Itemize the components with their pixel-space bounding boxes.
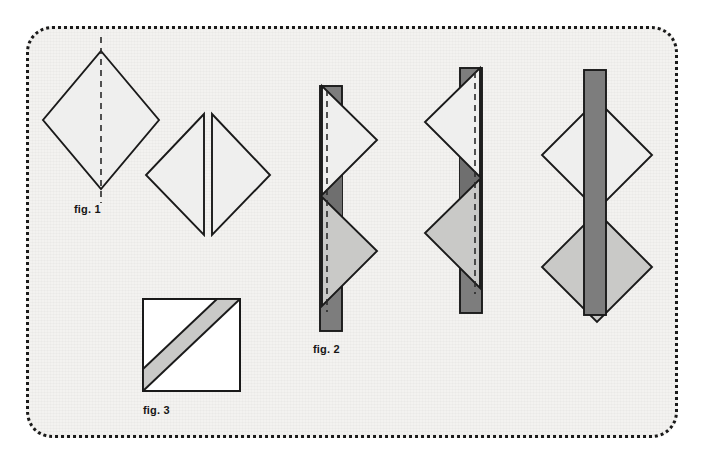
fig2-upper-triangle: [322, 86, 377, 195]
figure-1-label: fig. 1: [74, 203, 101, 215]
figure-2-joined-group: [542, 70, 652, 322]
figures-artwork: .ln { stroke: #1a1a1a; stroke-width: 1.9…: [0, 0, 703, 462]
figure-2-group: [320, 86, 377, 331]
figure-3-label: fig. 3: [143, 404, 170, 416]
figure-3-group: [143, 299, 240, 391]
fig2b-upper-triangle: [425, 68, 480, 177]
diagram-canvas: .ln { stroke: #1a1a1a; stroke-width: 1.9…: [0, 0, 703, 462]
fig2-lower-triangle: [322, 197, 377, 306]
figure-2-mirror-group: [425, 68, 482, 313]
fig2b-lower-triangle: [425, 179, 480, 288]
figure-2-label: fig. 2: [313, 343, 340, 355]
figure-1-group: [43, 37, 159, 203]
split-right-triangle: [212, 114, 270, 235]
split-left-triangle: [146, 114, 204, 235]
figure-1-split-group: [146, 114, 270, 235]
fig2c-vertical-bar: [584, 70, 606, 315]
